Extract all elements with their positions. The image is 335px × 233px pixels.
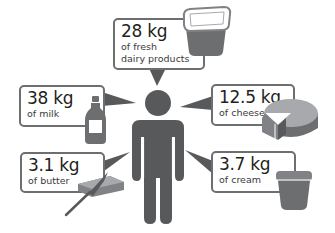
yogurt-cup-icon bbox=[184, 7, 230, 56]
cheese-wheel-icon bbox=[262, 99, 318, 140]
butter-knife-icon bbox=[66, 172, 124, 215]
cream-tub-icon bbox=[276, 171, 312, 210]
milk-bottle-icon bbox=[85, 96, 106, 144]
icons-layer bbox=[0, 0, 335, 233]
